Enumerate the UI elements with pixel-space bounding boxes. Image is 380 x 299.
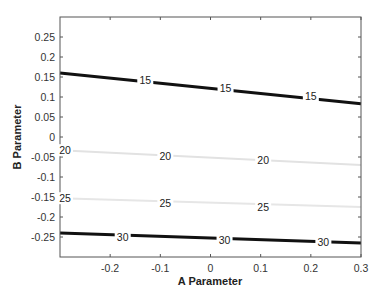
x-tick-label: -0.2: [101, 262, 119, 274]
x-tick-label: 0.3: [354, 262, 369, 274]
y-tick-label: 0: [49, 131, 55, 143]
y-tick-label: 0.05: [35, 111, 56, 123]
contour-label-25: 25: [59, 192, 71, 204]
contour-label-15: 15: [220, 82, 232, 94]
x-tick-label: 0: [208, 262, 214, 274]
y-tick-label: -0.1: [37, 171, 55, 183]
contour-label-30: 30: [219, 234, 231, 246]
y-tick-label: -0.25: [31, 231, 55, 243]
y-axis-title: B Parameter: [11, 104, 23, 170]
contour-line-25: [60, 198, 361, 207]
contour-label-30: 30: [318, 236, 330, 248]
y-tick-label: 0.25: [35, 31, 56, 43]
y-tick-label: -0.15: [31, 191, 55, 203]
x-tick-label: 0.1: [253, 262, 268, 274]
y-tick-label: 0.15: [35, 71, 56, 83]
contour-label-15: 15: [139, 74, 151, 86]
y-tick-label: 0.1: [40, 91, 55, 103]
contour-label-20: 20: [59, 144, 71, 156]
y-tick-label: 0.2: [40, 51, 55, 63]
contour-label-25: 25: [257, 201, 269, 213]
contour-label-25: 25: [160, 197, 172, 209]
contour-line-20: [60, 150, 361, 165]
contour-chart: -0.2-0.100.10.20.3 0.250.20.150.10.050-0…: [0, 0, 380, 299]
plot-area-frame: [60, 17, 361, 257]
contour-label-30: 30: [117, 231, 129, 243]
y-tick-label: -0.2: [37, 211, 55, 223]
x-tick-label: -0.1: [151, 262, 169, 274]
x-tick-label: 0.2: [304, 262, 319, 274]
x-axis-title: A Parameter: [178, 275, 243, 287]
contour-label-20: 20: [160, 150, 172, 162]
contour-label-20: 20: [257, 154, 269, 166]
y-tick-label: -0.05: [31, 151, 55, 163]
y-axis: 0.250.20.150.10.050-0.05-0.1-0.15-0.2-0.…: [31, 31, 361, 243]
contour-label-15: 15: [305, 90, 317, 102]
